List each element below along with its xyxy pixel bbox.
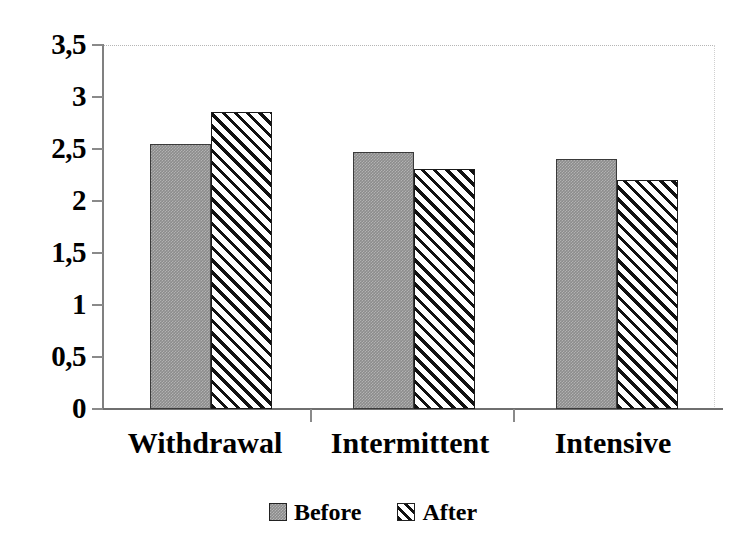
y-axis-tick-label: 0,5 xyxy=(10,342,86,371)
category-label-intensive: Intensive xyxy=(511,428,715,458)
legend-item-after[interactable]: After xyxy=(397,500,477,524)
y-axis-tick xyxy=(92,200,103,202)
legend-label-after: After xyxy=(422,500,477,524)
bar-chart: 00,511,522,533,5 Withdrawal Intermittent… xyxy=(0,0,746,560)
y-axis-tick xyxy=(92,96,103,98)
y-axis-tick xyxy=(92,148,103,150)
y-axis-tick-label: 2 xyxy=(10,186,86,215)
bar-withdrawal-before[interactable] xyxy=(150,144,211,409)
y-axis-tick xyxy=(92,44,103,46)
y-axis-tick xyxy=(92,304,103,306)
category-separator-1 xyxy=(310,409,312,422)
legend-item-before[interactable]: Before xyxy=(269,500,362,524)
y-axis-tick-label: 1 xyxy=(10,290,86,319)
y-axis-tick xyxy=(92,356,103,358)
y-axis-tick-label: 2,5 xyxy=(10,134,86,163)
bar-intermittent-before[interactable] xyxy=(353,152,414,409)
y-axis-tick xyxy=(92,408,103,410)
bars-layer xyxy=(103,45,715,409)
bar-intermittent-after[interactable] xyxy=(414,169,475,409)
category-label-withdrawal: Withdrawal xyxy=(103,428,307,458)
category-label-intermittent: Intermittent xyxy=(308,428,512,458)
legend-swatch-after-icon xyxy=(397,503,415,521)
bar-intensive-before[interactable] xyxy=(556,159,617,409)
legend-swatch-before-icon xyxy=(269,503,287,521)
y-axis-tick-label: 1,5 xyxy=(10,238,86,267)
bar-withdrawal-after[interactable] xyxy=(211,112,272,409)
y-axis-tick xyxy=(92,252,103,254)
y-axis-tick-label: 3,5 xyxy=(10,30,86,59)
y-axis-tick-label: 3 xyxy=(10,82,86,111)
category-separator-2 xyxy=(513,409,515,422)
y-axis-tick-label: 0 xyxy=(10,394,86,423)
bar-intensive-after[interactable] xyxy=(617,180,678,409)
legend-label-before: Before xyxy=(294,500,362,524)
chart-legend: Before After xyxy=(0,500,746,524)
